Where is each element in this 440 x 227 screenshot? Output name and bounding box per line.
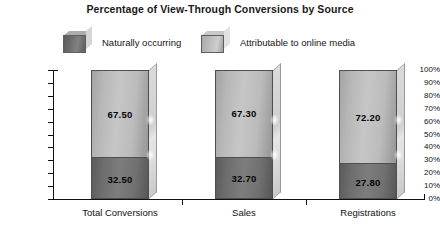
bar-value-label: 67.30 xyxy=(232,108,257,119)
legend-label-naturally-occurring: Naturally occurring xyxy=(102,37,181,48)
y-axis-tick xyxy=(48,186,53,187)
bar-value-label: 32.70 xyxy=(232,173,257,184)
bar-segment-naturally-occurring[interactable]: 32.70 xyxy=(216,158,272,199)
chart-container: Percentage of View-Through Conversions b… xyxy=(0,0,440,227)
x-axis-tick xyxy=(182,199,183,205)
bar-segment-naturally-occurring[interactable]: 32.50 xyxy=(92,158,148,199)
bar-segment-attributable-online-media[interactable]: 67.50 xyxy=(92,71,148,158)
x-axis-label: Total Conversions xyxy=(50,207,190,218)
bar-value-label: 32.50 xyxy=(108,174,133,185)
bar-value-label: 72.20 xyxy=(356,112,381,123)
y-axis-tick xyxy=(48,83,53,84)
bar-registrations[interactable]: 72.2027.80 xyxy=(339,70,405,199)
chart-legend: Naturally occurring Attributable to onli… xyxy=(60,30,400,54)
y-axis-tick xyxy=(48,147,53,148)
y-axis-line xyxy=(53,70,54,199)
plot-area: 100%90%80%70%60%50%40%30%20%10%0% 67.503… xyxy=(0,60,440,227)
bar-segment-attributable-online-media[interactable]: 67.30 xyxy=(216,71,272,158)
bar-segment-attributable-online-media[interactable]: 72.20 xyxy=(340,71,396,164)
bar-total-conversions[interactable]: 67.5032.50 xyxy=(91,70,157,199)
y-axis-tick xyxy=(48,173,53,174)
y-axis-top-cap xyxy=(53,70,58,71)
y-axis-tick xyxy=(48,70,53,71)
legend-swatch-light-icon xyxy=(201,31,231,53)
x-axis-label: Registrations xyxy=(298,207,438,218)
bar-front-face: 67.3032.70 xyxy=(215,70,273,199)
bar-side-face xyxy=(397,63,405,199)
bar-side-face xyxy=(149,63,157,199)
bar-value-label: 27.80 xyxy=(356,177,381,188)
y-axis-tick xyxy=(48,135,53,136)
x-axis-tick xyxy=(306,199,307,205)
y-axis-tick xyxy=(48,160,53,161)
y-axis-tick xyxy=(48,199,53,200)
bar-sales[interactable]: 67.3032.70 xyxy=(215,70,281,199)
legend-label-attributable-online-media: Attributable to online media xyxy=(240,37,355,48)
bar-value-label: 67.50 xyxy=(108,109,133,120)
bar-side-face xyxy=(273,63,281,199)
x-axis-label: Sales xyxy=(174,207,314,218)
legend-item-naturally-occurring: Naturally occurring xyxy=(63,30,181,54)
y-axis-tick xyxy=(48,122,53,123)
bar-front-face: 67.5032.50 xyxy=(91,70,149,199)
legend-swatch-dark-icon xyxy=(63,31,93,53)
bar-segment-naturally-occurring[interactable]: 27.80 xyxy=(340,164,396,199)
bar-front-face: 72.2027.80 xyxy=(339,70,397,199)
x-axis-line xyxy=(53,199,425,200)
y-axis-tick xyxy=(48,96,53,97)
legend-item-attributable-online-media: Attributable to online media xyxy=(201,30,355,54)
chart-title: Percentage of View-Through Conversions b… xyxy=(0,3,440,15)
y-axis-tick xyxy=(48,109,53,110)
